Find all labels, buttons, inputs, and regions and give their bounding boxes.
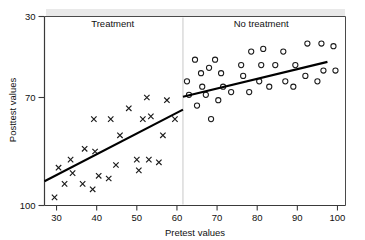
data-point-marker-x	[96, 173, 101, 178]
data-point-marker-o	[303, 73, 308, 78]
data-point-marker-x	[52, 195, 57, 200]
data-point-marker-x	[144, 95, 149, 100]
series-no-treatment-markers	[184, 41, 338, 122]
data-point-marker-x	[117, 133, 122, 138]
data-point-marker-x	[113, 162, 118, 167]
y-tick-label: 70	[25, 92, 36, 103]
x-tick-label: 90	[292, 212, 303, 223]
data-point-marker-x	[134, 157, 139, 162]
y-tick-label: 30	[25, 11, 36, 22]
group-label-no-treatment: No treatment	[234, 18, 289, 29]
data-point-marker-x	[160, 133, 165, 138]
data-point-marker-x	[90, 187, 95, 192]
data-point-marker-o	[206, 65, 211, 70]
data-point-marker-x	[70, 170, 75, 175]
data-point-marker-o	[192, 57, 197, 62]
data-point-marker-o	[203, 92, 208, 97]
x-tick-label: 100	[330, 212, 346, 223]
trend-line-no-treatment	[183, 62, 327, 97]
data-point-marker-x	[146, 157, 151, 162]
trend-line-treatment	[45, 110, 183, 182]
data-point-marker-o	[315, 79, 320, 84]
series-treatment-markers	[52, 95, 178, 200]
data-point-marker-x	[156, 160, 161, 165]
data-point-marker-x	[62, 181, 67, 186]
y-axis-title: Posttest values	[7, 78, 18, 143]
x-tick-label: 40	[91, 212, 102, 223]
data-point-marker-x	[106, 176, 111, 181]
data-point-marker-x	[136, 168, 141, 173]
data-point-marker-o	[241, 73, 246, 78]
plot-frame	[45, 17, 346, 206]
data-point-marker-o	[247, 90, 252, 95]
data-point-marker-o	[293, 63, 298, 68]
data-point-marker-o	[331, 44, 336, 49]
data-point-marker-x	[68, 157, 73, 162]
x-tick-label: 60	[172, 212, 183, 223]
scatter-plot-figure: 30405060708090100 1007030 Treatment No t…	[0, 0, 365, 240]
data-point-marker-o	[194, 103, 199, 108]
data-point-marker-o	[216, 98, 221, 103]
data-point-marker-x	[126, 106, 131, 111]
plot-canvas: 30405060708090100 1007030 Treatment No t…	[0, 0, 365, 240]
top-band-decoration	[46, 9, 345, 16]
x-axis-tick-labels: 30405060708090100	[51, 212, 345, 223]
data-point-marker-x	[172, 116, 177, 121]
data-point-marker-o	[319, 41, 324, 46]
data-point-marker-x	[164, 98, 169, 103]
data-point-marker-o	[212, 57, 217, 62]
x-axis-title: Pretest values	[165, 227, 225, 238]
x-tick-label: 70	[212, 212, 223, 223]
data-point-marker-o	[261, 46, 266, 51]
data-point-marker-x	[148, 114, 153, 119]
data-point-marker-o	[239, 63, 244, 68]
data-point-marker-o	[305, 41, 310, 46]
data-point-marker-o	[321, 68, 326, 73]
x-tick-label: 50	[132, 212, 143, 223]
data-point-marker-x	[80, 181, 85, 186]
x-tick-label: 30	[51, 212, 62, 223]
x-axis-ticks	[57, 206, 338, 211]
data-point-marker-o	[198, 71, 203, 76]
data-point-marker-o	[184, 79, 189, 84]
y-axis-ticks	[39, 17, 45, 206]
data-point-marker-o	[249, 49, 254, 54]
data-point-marker-o	[281, 49, 286, 54]
y-axis-tick-labels: 1007030	[20, 11, 36, 211]
group-label-treatment: Treatment	[91, 18, 134, 29]
data-point-marker-x	[82, 146, 87, 151]
data-point-marker-o	[208, 117, 213, 122]
data-point-marker-o	[267, 84, 272, 89]
data-point-marker-o	[273, 63, 278, 68]
x-tick-label: 80	[252, 212, 263, 223]
y-tick-label: 100	[20, 200, 36, 211]
data-point-marker-x	[108, 116, 113, 121]
data-point-marker-x	[56, 165, 61, 170]
data-point-marker-o	[333, 68, 338, 73]
data-point-marker-x	[91, 116, 96, 121]
data-point-marker-x	[140, 116, 145, 121]
data-point-marker-o	[218, 71, 223, 76]
data-point-marker-o	[200, 84, 205, 89]
data-point-marker-o	[291, 84, 296, 89]
data-point-marker-o	[259, 63, 264, 68]
data-point-marker-o	[229, 90, 234, 95]
data-point-marker-o	[283, 79, 288, 84]
